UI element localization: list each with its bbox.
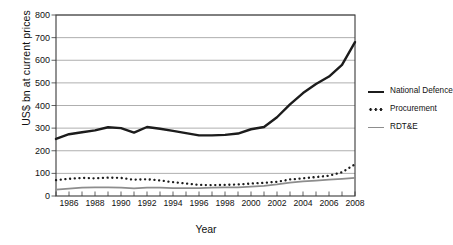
x-tick-label: 1986 <box>59 199 78 208</box>
x-tick-label: 2008 <box>345 199 364 208</box>
x-axis-title: Year <box>56 223 356 235</box>
x-tick-label: 1988 <box>85 199 104 208</box>
solid-thick-line-icon <box>368 87 384 97</box>
x-tick-label: 2006 <box>319 199 338 208</box>
x-tick-label: 2004 <box>293 199 312 208</box>
x-tick-label: 1990 <box>111 199 130 208</box>
x-tick-label: 1996 <box>189 199 208 208</box>
x-tick-label: 1998 <box>215 199 234 208</box>
x-tick-label: 2000 <box>241 199 260 208</box>
legend-item-2: Procurement <box>368 103 448 116</box>
y-axis-title: US$ bn at current prices <box>20 0 32 158</box>
legend-label: National Defence <box>390 87 453 95</box>
dotted-line-icon <box>368 105 384 115</box>
legend-item-1: National Defence <box>368 85 448 98</box>
x-tick-label: 2002 <box>267 199 286 208</box>
x-tick-label: 1992 <box>137 199 156 208</box>
solid-grey-line-icon <box>368 123 384 133</box>
legend-label: RDT&E <box>390 123 418 131</box>
legend-label: Procurement <box>390 105 437 113</box>
x-tick-label: 1994 <box>163 199 182 208</box>
chart-legend: National DefenceProcurementRDT&E <box>368 85 448 139</box>
legend-item-3: RDT&E <box>368 121 448 134</box>
